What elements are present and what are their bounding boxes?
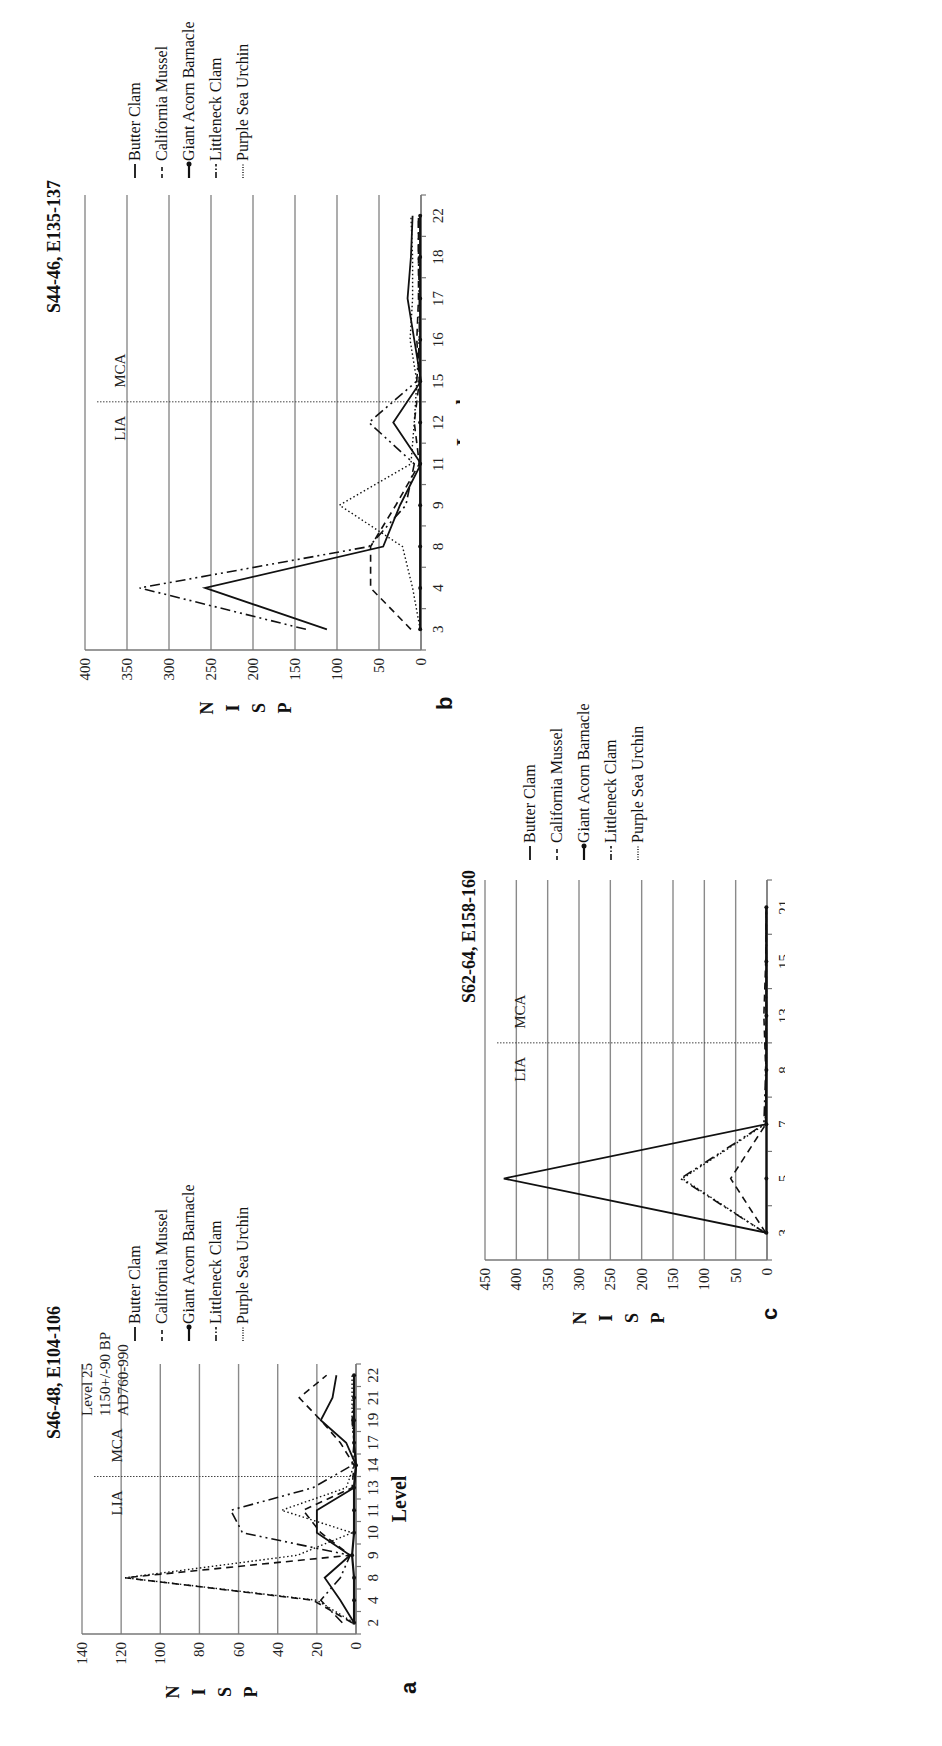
y-axis-title-letter: P — [241, 1687, 261, 1698]
x-tick-label: 14 — [365, 1457, 381, 1473]
legend-item: Purple Sea Urchin — [234, 1207, 252, 1324]
x-tick-label: 3 — [430, 626, 446, 634]
period-label-mca: MCA — [112, 353, 128, 387]
legend: Butter ClamCalifornia MusselGiant Acorn … — [126, 22, 252, 179]
y-axis-title-letter: I — [189, 1688, 209, 1695]
y-axis-title-letter: P — [275, 703, 295, 714]
y-tick-label: 250 — [203, 658, 219, 681]
series-littleneck-clam — [140, 216, 420, 630]
y-axis-title-letter: N — [163, 1686, 183, 1699]
y-tick-label: 150 — [665, 1268, 681, 1291]
x-tick-label: 16 — [430, 332, 446, 348]
x-axis-title: Level — [388, 1475, 410, 1522]
x-tick-label: 21 — [776, 900, 785, 915]
y-tick-label: 300 — [161, 658, 177, 681]
y-tick-label: 60 — [231, 1642, 247, 1657]
y-tick-label: 40 — [270, 1642, 286, 1657]
y-tick-label: 100 — [696, 1268, 712, 1291]
y-tick-label: 0 — [759, 1268, 775, 1276]
y-tick-label: 50 — [728, 1268, 744, 1283]
x-tick-label: 15 — [430, 374, 446, 389]
panel-letter: b — [432, 697, 457, 710]
legend-item: Butter Clam — [126, 1245, 143, 1324]
legend-item: Giant Acorn Barnacle — [180, 1185, 197, 1325]
y-axis-title-letter: I — [223, 704, 243, 711]
x-tick-label: 8 — [430, 543, 446, 551]
y-tick-label: 450 — [477, 1268, 493, 1291]
chart-title: S44-46, E135-137 — [44, 180, 64, 313]
y-tick-label: 50 — [371, 658, 387, 673]
x-tick-label: 8 — [365, 1574, 381, 1582]
y-tick-label: 200 — [245, 658, 261, 681]
y-tick-label: 0 — [413, 658, 429, 666]
y-tick-label: 250 — [602, 1268, 618, 1291]
legend: Butter ClamCalifornia MusselGiant Acorn … — [126, 1185, 252, 1342]
series-butter-clam — [504, 907, 767, 1233]
y-tick-label: 400 — [508, 1268, 524, 1291]
x-tick-label: 11 — [365, 1503, 381, 1517]
x-tick-label: 10 — [365, 1525, 381, 1540]
panel-b: 0501001502002503003504003489111215161718… — [0, 0, 460, 790]
chart-a-svg: 02040608010012014024891011131417192122Le… — [0, 986, 440, 1746]
x-tick-label: 5 — [776, 1175, 785, 1183]
legend-item: Littleneck Clam — [207, 1220, 224, 1324]
date-annotation: Level 25 — [79, 1363, 95, 1416]
period-label-mca: MCA — [512, 995, 528, 1029]
legend-item: Giant Acorn Barnacle — [575, 704, 592, 844]
x-tick-label: 7 — [776, 1120, 785, 1128]
series-butter-clam — [205, 216, 421, 630]
legend-item: California Mussel — [153, 45, 170, 161]
x-tick-label: 22 — [365, 1368, 381, 1383]
legend-item: Littleneck Clam — [207, 57, 224, 161]
y-axis-title-letter: S — [622, 1313, 642, 1323]
y-tick-label: 140 — [74, 1642, 90, 1665]
x-tick-label: 17 — [365, 1435, 381, 1451]
legend-item: California Mussel — [548, 727, 565, 843]
series-littleneck-clam — [681, 907, 767, 1233]
chart-c-svg: 0501001502002503003504004503578131521Lev… — [455, 660, 785, 1360]
x-tick-label: 13 — [776, 1008, 785, 1023]
x-tick-label: 11 — [430, 457, 446, 471]
y-tick-label: 150 — [287, 658, 303, 681]
x-tick-label: 4 — [430, 584, 446, 592]
x-tick-label: 22 — [430, 208, 446, 223]
legend: Butter ClamCalifornia MusselGiant Acorn … — [521, 704, 647, 861]
x-tick-label: 3 — [776, 1229, 785, 1237]
x-tick-label: 19 — [365, 1413, 381, 1428]
series-butter-clam — [317, 1375, 356, 1623]
panel-letter: a — [396, 1681, 421, 1694]
period-label-mca: MCA — [109, 1428, 125, 1462]
x-tick-label: 17 — [430, 290, 446, 306]
y-axis-title-letter: S — [215, 1687, 235, 1697]
series-purple-sea-urchin — [682, 907, 766, 1233]
y-tick-label: 350 — [540, 1268, 556, 1291]
period-label-lia: LIA — [112, 416, 128, 441]
chart-title: S62-64, E158-160 — [459, 870, 479, 1003]
y-tick-label: 400 — [77, 658, 93, 681]
y-tick-label: 100 — [329, 658, 345, 681]
period-label-lia: LIA — [109, 1490, 125, 1515]
y-tick-label: 120 — [113, 1642, 129, 1665]
panel-letter: c — [757, 1308, 782, 1320]
chart-title: S46-48, E104-106 — [44, 1306, 64, 1439]
y-tick-label: 200 — [634, 1268, 650, 1291]
period-label-lia: LIA — [512, 1057, 528, 1082]
chart-b-svg: 0501001502002503003504003489111215161718… — [0, 0, 460, 790]
x-tick-label: 2 — [365, 1619, 381, 1627]
panel-c: 0501001502002503003504004503578131521Lev… — [455, 660, 785, 1360]
series-purple-sea-urchin — [340, 216, 421, 630]
y-tick-label: 100 — [152, 1642, 168, 1665]
x-tick-label: 18 — [430, 250, 446, 265]
y-axis-title-letter: I — [596, 1314, 616, 1321]
x-tick-label: 13 — [365, 1480, 381, 1495]
legend-item: Giant Acorn Barnacle — [180, 22, 197, 162]
legend-item: Butter Clam — [521, 764, 538, 843]
panel-a: 02040608010012014024891011131417192122Le… — [0, 986, 440, 1746]
y-axis-title-letter: N — [570, 1312, 590, 1325]
y-axis-title-letter: N — [197, 702, 217, 715]
x-tick-label: 8 — [776, 1066, 785, 1074]
series-purple-sea-urchin — [125, 1375, 354, 1623]
y-tick-label: 300 — [571, 1268, 587, 1291]
series-california-mussel — [125, 1375, 354, 1623]
y-tick-label: 80 — [191, 1642, 207, 1657]
